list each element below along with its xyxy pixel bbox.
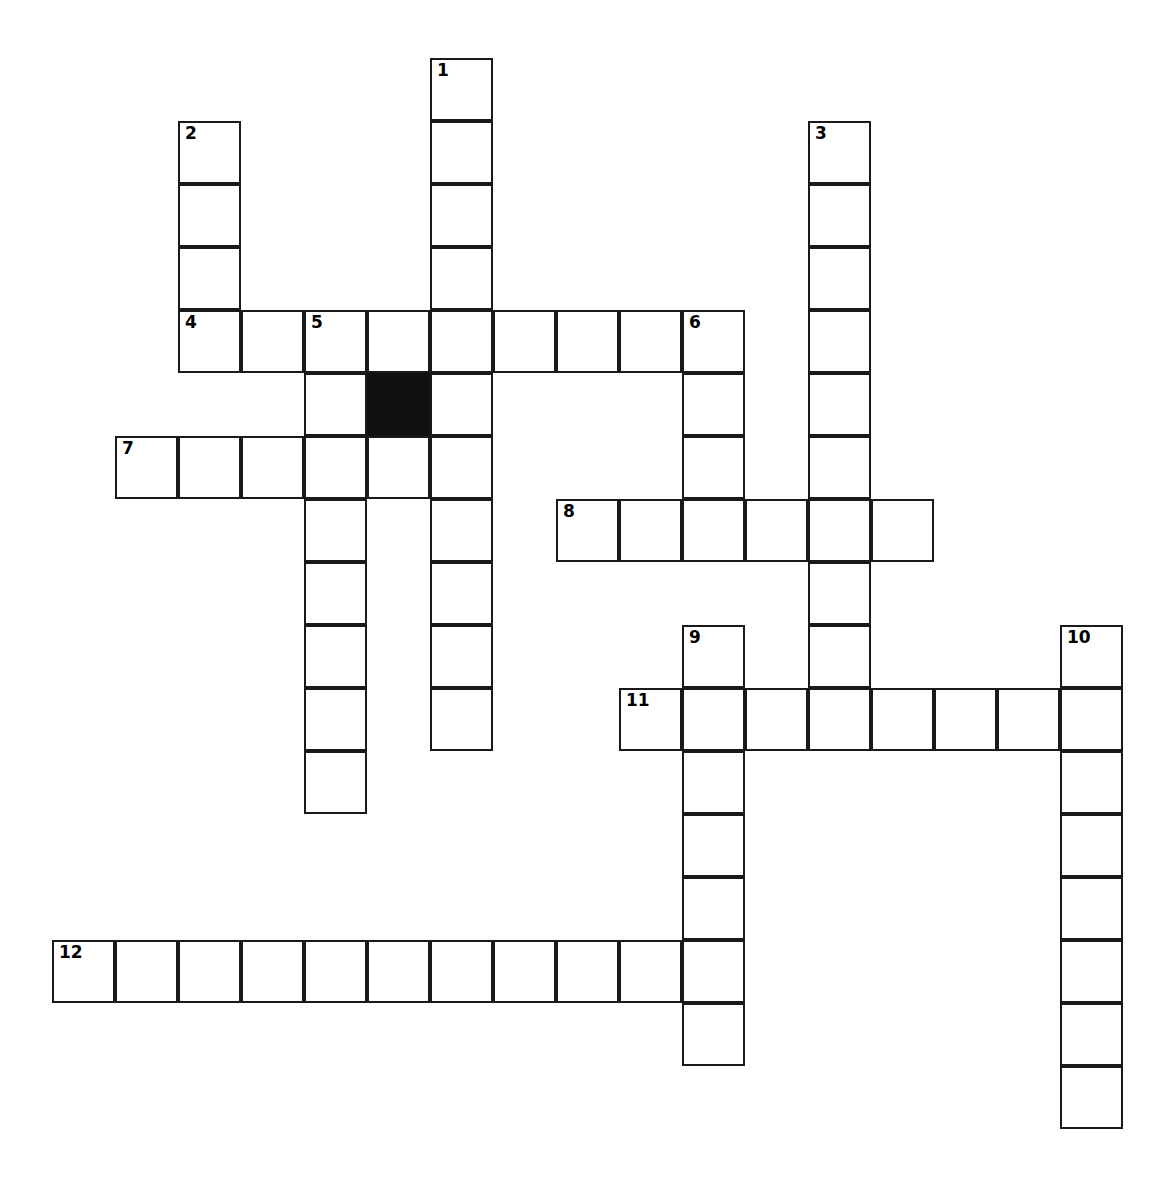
grid-cell[interactable] bbox=[178, 184, 241, 247]
grid-cell[interactable] bbox=[1060, 1003, 1123, 1066]
grid-cell[interactable] bbox=[304, 499, 367, 562]
grid-cell[interactable] bbox=[1060, 877, 1123, 940]
grid-cell[interactable] bbox=[682, 940, 745, 1003]
grid-cell[interactable] bbox=[1060, 1066, 1123, 1129]
grid-cell[interactable] bbox=[304, 436, 367, 499]
numbered-cell-8[interactable]: 8 bbox=[556, 499, 619, 562]
crossword-grid[interactable]: 123456789101112 bbox=[0, 0, 1149, 1191]
grid-cell[interactable] bbox=[682, 877, 745, 940]
cell-number-1: 1 bbox=[437, 62, 449, 80]
grid-cell[interactable] bbox=[934, 688, 997, 751]
numbered-cell-10[interactable]: 10 bbox=[1060, 625, 1123, 688]
grid-cell[interactable] bbox=[304, 751, 367, 814]
grid-cell[interactable] bbox=[430, 436, 493, 499]
grid-cell[interactable] bbox=[430, 499, 493, 562]
grid-cell[interactable] bbox=[430, 184, 493, 247]
grid-cell[interactable] bbox=[241, 436, 304, 499]
grid-cell[interactable] bbox=[178, 247, 241, 310]
numbered-cell-7[interactable]: 7 bbox=[115, 436, 178, 499]
grid-cell[interactable] bbox=[430, 562, 493, 625]
grid-cell[interactable] bbox=[745, 499, 808, 562]
grid-cell[interactable] bbox=[808, 184, 871, 247]
grid-cell[interactable] bbox=[430, 625, 493, 688]
grid-cell[interactable] bbox=[430, 247, 493, 310]
grid-cell[interactable] bbox=[682, 688, 745, 751]
grid-cell[interactable] bbox=[493, 310, 556, 373]
numbered-cell-9[interactable]: 9 bbox=[682, 625, 745, 688]
grid-cell[interactable] bbox=[808, 436, 871, 499]
numbered-cell-4[interactable]: 4 bbox=[178, 310, 241, 373]
grid-cell[interactable] bbox=[556, 940, 619, 1003]
grid-cell[interactable] bbox=[304, 940, 367, 1003]
grid-cell[interactable] bbox=[808, 247, 871, 310]
numbered-cell-3[interactable]: 3 bbox=[808, 121, 871, 184]
grid-cell[interactable] bbox=[808, 310, 871, 373]
grid-cell[interactable] bbox=[682, 373, 745, 436]
grid-cell[interactable] bbox=[367, 940, 430, 1003]
grid-cell[interactable] bbox=[808, 373, 871, 436]
grid-cell[interactable] bbox=[430, 688, 493, 751]
grid-cell[interactable] bbox=[304, 562, 367, 625]
cell-number-7: 7 bbox=[122, 440, 134, 458]
grid-cell[interactable] bbox=[304, 625, 367, 688]
grid-cell[interactable] bbox=[1060, 751, 1123, 814]
grid-cell[interactable] bbox=[1060, 688, 1123, 751]
grid-cell[interactable] bbox=[241, 310, 304, 373]
numbered-cell-12[interactable]: 12 bbox=[52, 940, 115, 1003]
grid-cell[interactable] bbox=[619, 499, 682, 562]
grid-cell[interactable] bbox=[682, 436, 745, 499]
grid-cell[interactable] bbox=[682, 499, 745, 562]
cell-number-2: 2 bbox=[185, 125, 197, 143]
cell-number-10: 10 bbox=[1067, 629, 1091, 647]
grid-cell[interactable] bbox=[871, 688, 934, 751]
cell-number-4: 4 bbox=[185, 314, 197, 332]
cell-number-6: 6 bbox=[689, 314, 701, 332]
grid-cell[interactable] bbox=[997, 688, 1060, 751]
grid-cell[interactable] bbox=[241, 940, 304, 1003]
numbered-cell-1[interactable]: 1 bbox=[430, 58, 493, 121]
grid-cell[interactable] bbox=[682, 814, 745, 877]
numbered-cell-5[interactable]: 5 bbox=[304, 310, 367, 373]
grid-cell[interactable] bbox=[556, 310, 619, 373]
crossword-puzzle: 123456789101112 bbox=[0, 0, 1149, 1191]
grid-cell[interactable] bbox=[178, 436, 241, 499]
grid-cell[interactable] bbox=[682, 1003, 745, 1066]
cell-number-5: 5 bbox=[311, 314, 323, 332]
grid-cell[interactable] bbox=[115, 940, 178, 1003]
grid-cell[interactable] bbox=[367, 310, 430, 373]
grid-cell[interactable] bbox=[1060, 814, 1123, 877]
grid-cell[interactable] bbox=[808, 625, 871, 688]
numbered-cell-11[interactable]: 11 bbox=[619, 688, 682, 751]
grid-cell[interactable] bbox=[304, 373, 367, 436]
grid-cell[interactable] bbox=[430, 121, 493, 184]
grid-cell[interactable] bbox=[178, 940, 241, 1003]
cell-number-11: 11 bbox=[626, 692, 650, 710]
grid-cell[interactable] bbox=[367, 436, 430, 499]
grid-cell[interactable] bbox=[304, 688, 367, 751]
grid-cell[interactable] bbox=[808, 499, 871, 562]
cell-number-3: 3 bbox=[815, 125, 827, 143]
numbered-cell-6[interactable]: 6 bbox=[682, 310, 745, 373]
grid-cell[interactable] bbox=[619, 310, 682, 373]
grid-cell[interactable] bbox=[871, 499, 934, 562]
cell-number-12: 12 bbox=[59, 944, 83, 962]
grid-cell[interactable] bbox=[1060, 940, 1123, 1003]
grid-cell[interactable] bbox=[682, 751, 745, 814]
grid-cell[interactable] bbox=[430, 373, 493, 436]
grid-cell[interactable] bbox=[430, 940, 493, 1003]
cell-number-9: 9 bbox=[689, 629, 701, 647]
grid-cell[interactable] bbox=[808, 562, 871, 625]
grid-cell[interactable] bbox=[745, 688, 808, 751]
grid-cell[interactable] bbox=[619, 940, 682, 1003]
grid-cell[interactable] bbox=[430, 310, 493, 373]
numbered-cell-2[interactable]: 2 bbox=[178, 121, 241, 184]
block-cell bbox=[367, 373, 430, 436]
grid-cell[interactable] bbox=[493, 940, 556, 1003]
grid-cell[interactable] bbox=[808, 688, 871, 751]
cell-number-8: 8 bbox=[563, 503, 575, 521]
